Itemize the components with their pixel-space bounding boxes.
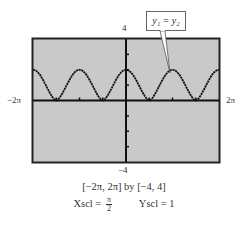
window-range-caption: [−2π, 2π] by [−4, 4] xyxy=(0,181,248,192)
xscl-label: Xscl = xyxy=(73,198,101,209)
scale-caption: Xscl = π 2 Yscl = 1 xyxy=(0,196,248,213)
y-max-label: 4 xyxy=(122,23,127,33)
xscl-fraction: π 2 xyxy=(106,196,112,213)
callout-label: y₁ = y₂ xyxy=(147,12,185,30)
x-min-label: −2π xyxy=(7,95,21,105)
x-max-label: 2π xyxy=(226,95,235,105)
yscl-label: Yscl = 1 xyxy=(139,198,175,209)
y-min-label: −4 xyxy=(118,165,128,175)
graph-screen xyxy=(0,0,248,226)
xscl-denominator: 2 xyxy=(106,205,112,213)
